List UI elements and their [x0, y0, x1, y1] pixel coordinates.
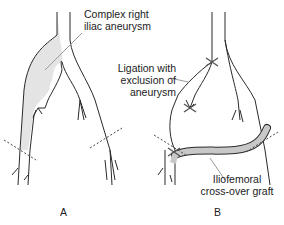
graft-label-line2: cross-over graft	[192, 185, 282, 197]
leader-lines	[45, 33, 225, 180]
aneurysm-label-line1: Complex right	[84, 8, 151, 20]
cut-lines	[4, 128, 278, 160]
ligation-label-line1: Ligation with	[104, 62, 176, 74]
panel-a-label: A	[60, 206, 67, 218]
ligation-label-line3: aneurysm	[104, 86, 176, 98]
aneurysm-label: Complex right iliac aneurysm	[84, 8, 151, 32]
aneurysm-label-line2: iliac aneurysm	[84, 20, 151, 32]
panel-b-label: B	[214, 206, 221, 218]
graft-label: Iliofemoral cross-over graft	[192, 173, 282, 197]
panel-a-vessels	[12, 12, 118, 185]
graft-label-line1: Iliofemoral	[192, 173, 282, 185]
ligation-label: Ligation with exclusion of aneurysm	[104, 62, 176, 98]
ligation-label-line2: exclusion of	[104, 74, 176, 86]
